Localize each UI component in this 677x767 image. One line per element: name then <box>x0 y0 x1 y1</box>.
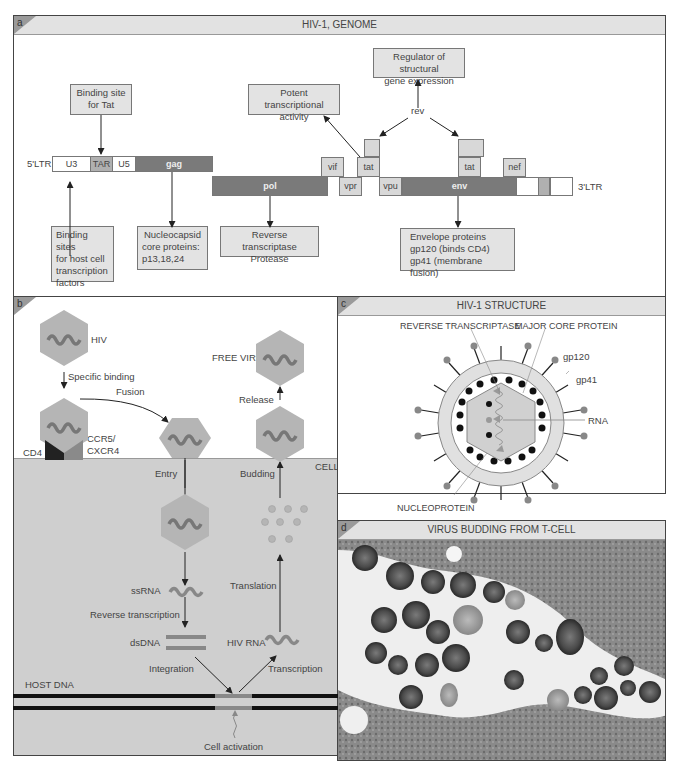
panel-d-letter: d <box>341 522 347 533</box>
virion-structure-diagram <box>0 0 677 767</box>
panel-b-letter: b <box>17 298 23 309</box>
panel-c-letter: c <box>341 298 346 309</box>
panel-a-letter: a <box>17 17 23 28</box>
